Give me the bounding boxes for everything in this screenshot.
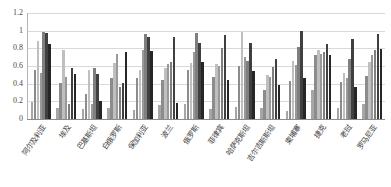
bar-group	[105, 13, 131, 119]
x-axis-tick: 柬埔寨	[283, 120, 309, 187]
plot-area	[28, 13, 385, 119]
bar-group	[28, 13, 54, 119]
y-axis-tick-label: 0.6	[13, 62, 23, 70]
bar	[74, 74, 76, 119]
x-axis-tick-label: 埃及	[58, 124, 73, 140]
bar	[227, 80, 229, 119]
x-axis-tick: 巴基斯坦	[79, 120, 105, 187]
bar-group	[334, 13, 360, 119]
y-axis-tick-label: 1.2	[13, 9, 23, 17]
x-axis-tick-label: 柬埔寨	[284, 124, 303, 146]
bar-group	[79, 13, 105, 119]
x-axis-tick-label: 保加利亚	[127, 124, 150, 152]
x-axis-tick-label: 罗马尼亚	[356, 124, 379, 152]
bar	[303, 78, 305, 119]
x-axis-tick: 捷克	[309, 120, 335, 187]
x-axis-tick-label: 俄罗斯	[182, 124, 201, 146]
bar-group	[283, 13, 309, 119]
bar-groups	[28, 13, 385, 119]
y-axis-tick-label: 0.8	[13, 44, 23, 52]
x-axis-tick-label: 白俄罗斯	[101, 124, 124, 152]
x-axis-tick-label: 巴基斯坦	[76, 124, 99, 152]
bar-group	[232, 13, 258, 119]
x-axis-tick-label: 菲律宾	[207, 124, 226, 146]
y-axis-tick-label: 0.2	[13, 97, 23, 105]
x-axis-tick-label: 老挝	[339, 124, 354, 140]
bar-group	[181, 13, 207, 119]
y-axis-tick-label: 0.4	[13, 80, 23, 88]
y-axis: 00.20.40.60.811.2	[0, 0, 26, 132]
x-axis-tick: 波兰	[156, 120, 182, 187]
bar-group	[309, 13, 335, 119]
x-axis-tick: 老挝	[334, 120, 360, 187]
x-axis-tick-label: 捷克	[313, 124, 328, 140]
bar	[99, 101, 101, 119]
bar	[380, 49, 382, 119]
x-axis-tick: 保加利亚	[130, 120, 156, 187]
bar	[201, 62, 203, 119]
bar-group	[156, 13, 182, 119]
y-axis-tick-label: 1	[19, 27, 23, 35]
x-axis-tick: 阿尔及利亚	[28, 120, 54, 187]
bar-chart: 00.20.40.60.811.2 阿尔及利亚埃及巴基斯坦白俄罗斯保加利亚波兰俄…	[0, 0, 391, 187]
y-axis-tick-label: 0	[19, 115, 23, 123]
x-axis-tick: 吉尔吉斯斯坦	[258, 120, 284, 187]
x-axis-tick: 罗马尼亚	[360, 120, 386, 187]
bar-group	[54, 13, 80, 119]
bar	[48, 44, 50, 119]
bar	[125, 52, 127, 119]
x-axis-tick-label: 波兰	[160, 124, 175, 140]
x-axis-tick: 埃及	[54, 120, 80, 187]
bar-group	[258, 13, 284, 119]
bar	[150, 51, 152, 119]
bar-group	[360, 13, 386, 119]
x-axis-tick: 俄罗斯	[181, 120, 207, 187]
x-axis: 阿尔及利亚埃及巴基斯坦白俄罗斯保加利亚波兰俄罗斯菲律宾哈萨克斯坦吉尔吉斯斯坦柬埔…	[28, 120, 385, 187]
bar	[252, 71, 254, 119]
bar	[278, 85, 280, 119]
bar	[329, 55, 331, 119]
bar	[176, 103, 178, 119]
x-axis-tick: 白俄罗斯	[105, 120, 131, 187]
bar-group	[207, 13, 233, 119]
bar	[354, 87, 356, 119]
bar-group	[130, 13, 156, 119]
